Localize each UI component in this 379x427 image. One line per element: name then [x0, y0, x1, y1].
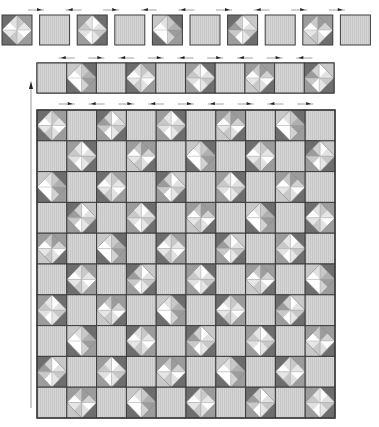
arrow-right-icon	[103, 8, 119, 11]
plain-square	[126, 233, 156, 264]
plain-square	[216, 141, 246, 172]
grid-cell-r7-c6	[186, 295, 216, 326]
grid-cell-r2-c10	[305, 141, 335, 172]
arrow-left-icon	[178, 8, 194, 11]
quilt-diagram	[0, 0, 379, 427]
grid-cell-r5-c7	[216, 233, 246, 264]
arrow-right-icon	[329, 8, 345, 11]
plain-square	[67, 233, 97, 264]
grid-cell-r4-c9	[275, 202, 305, 233]
plain-square	[265, 15, 295, 45]
grid-cell-r5-c5	[156, 233, 186, 264]
grid-cell-r8-c6	[186, 326, 216, 357]
grid-cell-r1-c9	[275, 110, 305, 141]
plain-square	[275, 326, 305, 357]
plain-square	[126, 172, 156, 203]
plain-square	[186, 233, 216, 264]
grid-cell-r7-c4	[126, 295, 156, 326]
top-block-8	[265, 15, 295, 45]
grid-cell-r6-c2	[67, 264, 97, 295]
grid-cell-r2-c1	[37, 141, 67, 172]
arrow-right-icon	[178, 102, 194, 105]
plain-square	[215, 63, 245, 93]
grid-cell-r6-c3	[97, 264, 127, 295]
plain-square	[126, 356, 156, 387]
grid-cell-r5-c9	[275, 233, 305, 264]
grid-cell-r7-c1	[37, 295, 67, 326]
arrow-right-icon	[291, 8, 307, 11]
grid-cell-r7-c8	[246, 295, 276, 326]
grid-cell-r9-c7	[216, 356, 246, 387]
top-block-6	[190, 15, 220, 45]
plain-square	[37, 202, 67, 233]
plain-square	[37, 63, 67, 93]
grid-cell-r1-c3	[97, 110, 127, 141]
plain-square	[186, 356, 216, 387]
arrow-right-icon	[216, 8, 232, 11]
plain-square	[37, 141, 67, 172]
grid-cell-r6-c7	[216, 264, 246, 295]
strip-cell-4	[126, 63, 156, 93]
arrow-left-icon	[148, 102, 164, 105]
vertical-arrow-group	[29, 81, 33, 408]
grid-cell-r3-c7	[216, 172, 246, 203]
top-block-2	[40, 15, 70, 45]
grid-cell-r8-c9	[275, 326, 305, 357]
arrow-left-icon	[254, 8, 270, 11]
plain-square	[246, 295, 276, 326]
grid-cell-r1-c5	[156, 110, 186, 141]
main-quilt-grid	[37, 102, 335, 418]
plain-square	[37, 387, 67, 418]
strip-cell-9	[275, 63, 305, 93]
plain-square	[126, 295, 156, 326]
strip-cell-8	[245, 63, 275, 93]
plain-square	[156, 141, 186, 172]
grid-cell-r4-c3	[97, 202, 127, 233]
grid-cell-r7-c5	[156, 295, 186, 326]
grid-cell-r4-c2	[67, 202, 97, 233]
plain-square	[275, 264, 305, 295]
grid-cell-r5-c1	[37, 233, 67, 264]
plain-square	[156, 326, 186, 357]
plain-square	[67, 356, 97, 387]
plain-square	[275, 63, 305, 93]
grid-cell-r6-c5	[156, 264, 186, 295]
top-block-9	[303, 15, 333, 45]
grid-cell-r10-c5	[156, 387, 186, 418]
grid-cell-r2-c4	[126, 141, 156, 172]
plain-square	[37, 264, 67, 295]
grid-cell-r9-c8	[246, 356, 276, 387]
grid-cell-r1-c1	[37, 110, 67, 141]
plain-square	[275, 202, 305, 233]
grid-cell-r5-c10	[305, 233, 335, 264]
arrow-right-icon	[148, 56, 164, 59]
arrow-right-icon	[59, 102, 75, 105]
plain-square	[186, 110, 216, 141]
strip-cell-2	[67, 63, 97, 93]
grid-cell-r3-c1	[37, 172, 67, 203]
grid-cell-r3-c9	[275, 172, 305, 203]
plain-square	[96, 63, 126, 93]
grid-cell-r1-c7	[216, 110, 246, 141]
grid-cell-r1-c6	[186, 110, 216, 141]
plain-square	[246, 110, 276, 141]
grid-cell-r8-c3	[97, 326, 127, 357]
grid-cell-r3-c2	[67, 172, 97, 203]
grid-cell-r1-c10	[305, 110, 335, 141]
grid-cell-r9-c5	[156, 356, 186, 387]
top-row-blocks	[2, 8, 370, 45]
grid-cell-r5-c2	[67, 233, 97, 264]
plain-square	[305, 110, 335, 141]
arrow-left-icon	[89, 102, 105, 105]
arrow-left-icon	[66, 8, 82, 11]
grid-cell-r9-c2	[67, 356, 97, 387]
grid-cell-r2-c2	[67, 141, 97, 172]
grid-cell-r2-c6	[186, 141, 216, 172]
plain-square	[216, 326, 246, 357]
grid-cell-r8-c5	[156, 326, 186, 357]
plain-square	[97, 202, 127, 233]
top-block-1	[2, 15, 32, 45]
grid-cell-r9-c6	[186, 356, 216, 387]
grid-cell-r9-c1	[37, 356, 67, 387]
arrow-right-icon	[118, 102, 134, 105]
